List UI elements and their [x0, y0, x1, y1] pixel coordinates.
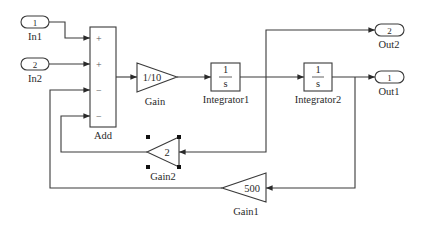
- outport-out1[interactable]: 1 Out1: [375, 71, 404, 97]
- add-sign-3: −: [96, 85, 102, 96]
- resize-handle-bottom-right[interactable]: [177, 165, 181, 169]
- outport-out2-number: 2: [387, 26, 392, 36]
- gain-value: 1/10: [143, 72, 162, 83]
- add-block[interactable]: + + − − Add: [90, 27, 116, 141]
- outport-out2-label: Out2: [379, 39, 400, 50]
- inport-in1-number: 1: [33, 18, 38, 28]
- integrator2-denominator: s: [316, 78, 320, 89]
- gain1-value: 500: [244, 183, 260, 194]
- outport-out1-number: 1: [387, 73, 392, 83]
- integrator1-block[interactable]: 1 s Integrator1: [203, 63, 250, 105]
- wire-gain1-add[interactable]: [50, 90, 222, 188]
- gain1-block[interactable]: 500 Gain1: [222, 173, 266, 217]
- integrator2-numerator: 1: [315, 64, 320, 75]
- integrator1-numerator: 1: [223, 64, 228, 75]
- gain-label: Gain: [145, 96, 166, 107]
- inport-in2-number: 2: [33, 60, 38, 70]
- add-sign-4: −: [96, 111, 102, 122]
- gain2-block[interactable]: 2 Gain2: [146, 135, 181, 182]
- gain1-label: Gain1: [233, 206, 259, 217]
- gain-block[interactable]: 1/10 Gain: [137, 63, 177, 107]
- gain2-value: 2: [164, 147, 169, 158]
- gain2-label: Gain2: [150, 171, 176, 182]
- resize-handle-top-right[interactable]: [177, 135, 181, 139]
- integrator1-denominator: s: [223, 78, 227, 89]
- add-label: Add: [94, 130, 113, 141]
- integrator2-label: Integrator2: [295, 94, 342, 105]
- integrator2-block[interactable]: 1 s Integrator2: [295, 63, 342, 105]
- inport-in2-label: In2: [28, 73, 42, 84]
- outport-out2[interactable]: 2 Out2: [375, 24, 404, 50]
- inport-in2[interactable]: 2 In2: [21, 58, 49, 84]
- block-diagram: 1 In1 2 In2 + + − − Add 1/10 Gain 1 s In…: [0, 0, 422, 226]
- outport-out1-label: Out1: [379, 86, 400, 97]
- add-sign-2: +: [96, 59, 102, 70]
- wire-in1-add[interactable]: [49, 22, 90, 38]
- inport-in1[interactable]: 1 In1: [21, 16, 49, 42]
- resize-handle-top-left[interactable]: [146, 135, 150, 139]
- resize-handle-bottom-left[interactable]: [146, 165, 150, 169]
- add-sign-1: +: [96, 33, 102, 44]
- inport-in1-label: In1: [28, 31, 42, 42]
- integrator1-label: Integrator1: [203, 94, 250, 105]
